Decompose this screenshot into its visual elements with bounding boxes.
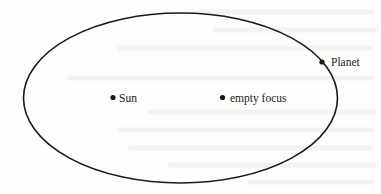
sun-dot-icon: [110, 95, 115, 100]
empty-focus-marker: empty focus: [220, 92, 287, 105]
empty-focus-dot-icon: [220, 95, 225, 100]
orbit-ellipse: [24, 13, 338, 183]
sun-marker: Sun: [110, 92, 137, 104]
planet-label: Planet: [331, 56, 361, 68]
planet-dot-icon: [319, 59, 324, 64]
empty-focus-label: empty focus: [230, 92, 287, 105]
orbit-diagram: Sun empty focus Planet: [0, 0, 381, 194]
sun-label: Sun: [119, 92, 137, 104]
